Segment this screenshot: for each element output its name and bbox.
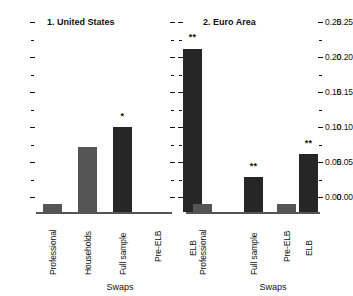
bar-professional-euro[interactable]	[193, 204, 212, 212]
significance-marker-full-sample-euro: **	[244, 162, 263, 171]
x-tick-label-full-sample-euro: Full sample	[250, 233, 259, 275]
panel2-title: 2. Euro Area	[203, 18, 256, 27]
bar-pre-elb-euro[interactable]	[277, 204, 296, 212]
bar-full-sample-euro[interactable]	[244, 177, 263, 212]
x-tick-label-pre-elb-euro: Pre-ELB	[283, 231, 292, 262]
x-tick-label-professional-euro: Professional	[199, 229, 208, 275]
panel2-x-axis-label: Swaps	[243, 283, 303, 292]
figure-root: 0.25 0.20 0.15 0.10 0.05 0.00 0.25 0.20 …	[0, 0, 353, 296]
bar-elb-euro[interactable]	[299, 154, 318, 212]
significance-marker-elb-euro: **	[299, 139, 318, 148]
panel-euro-area: 2. Euro Area ** ** Professional Full sam…	[0, 0, 353, 296]
x-tick-label-elb-euro: ELB	[305, 240, 314, 256]
panel2-baseline	[186, 212, 320, 214]
